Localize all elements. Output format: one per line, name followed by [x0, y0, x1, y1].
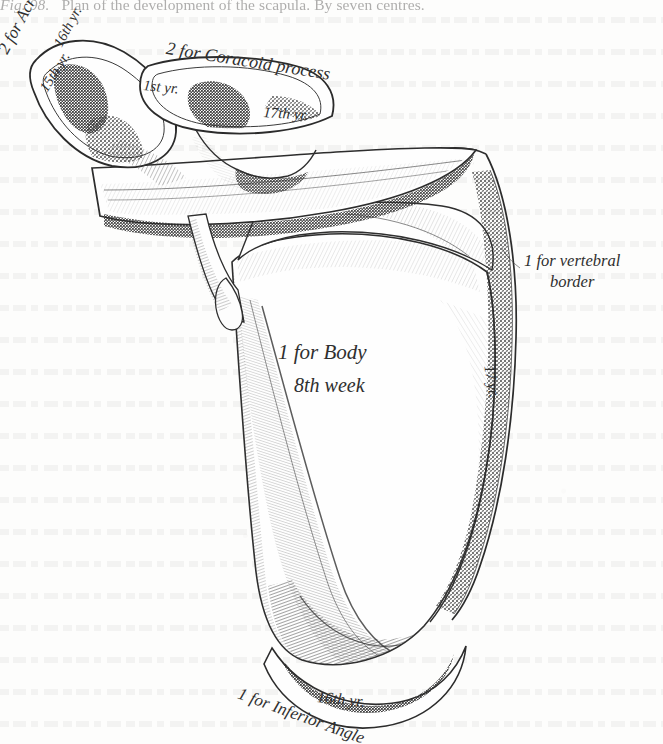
label-vertebral-border-line1: 1 for vertebral — [524, 251, 620, 270]
label-vertebral-border: 1 for vertebral border — [524, 251, 620, 292]
label-body: 1 for Body 8th week — [278, 340, 367, 397]
label-coracoid-centre-lower: 17th yr. — [263, 104, 309, 125]
plate-figure: Fig. 98. Plan of the development of the … — [0, 0, 663, 744]
label-coracoid-centre-upper: 1st yr. — [142, 77, 179, 98]
label-body-line1: 1 for Body — [278, 340, 367, 364]
label-body-line2: 8th week — [278, 374, 367, 398]
label-vertebral-border-line2: border — [524, 272, 620, 293]
